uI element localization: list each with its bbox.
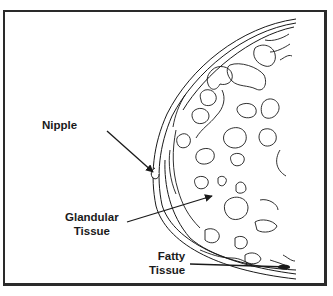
- glandular-tissue-label: Glandular Tissue: [65, 210, 119, 238]
- fatty-label-line2: Tissue: [149, 263, 185, 277]
- fatty-label-line1: Fatty: [149, 249, 185, 263]
- breast-outline: [153, 19, 296, 279]
- fatty-tissue-blob: [278, 265, 290, 270]
- glandular-label-line1: Glandular: [65, 210, 119, 224]
- fatty-tissue-label: Fatty Tissue: [149, 249, 185, 277]
- nipple-label: Nipple: [42, 118, 77, 132]
- glandular-label-line2: Tissue: [65, 224, 119, 238]
- fatty-pointer-line: [190, 264, 288, 267]
- nipple-pointer-arrow: [107, 131, 153, 172]
- nipple-shape: [151, 168, 159, 179]
- tissue-lobules: [169, 34, 295, 268]
